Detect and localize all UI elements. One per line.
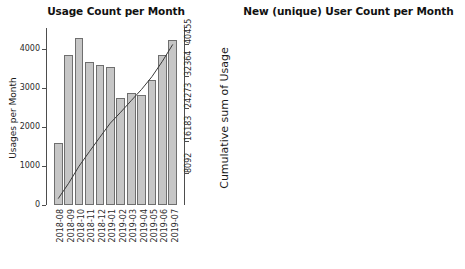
bar <box>64 55 73 205</box>
bar <box>168 40 177 205</box>
bar <box>148 80 157 205</box>
y2-tick-label: 24273 <box>185 83 193 108</box>
x-tick-label: 2019-06 <box>161 209 169 242</box>
y-tick-label: 4000 <box>20 45 40 53</box>
x-tick-label: 2019-05 <box>151 209 159 242</box>
bar-series-usage <box>53 30 178 205</box>
bar <box>106 67 115 205</box>
x-tick-label: 2018-10 <box>78 209 86 242</box>
bar <box>158 55 167 205</box>
bar <box>54 143 63 205</box>
x-tick-label: 2018-09 <box>68 209 76 242</box>
x-tick-label: 2018-08 <box>57 209 65 242</box>
chart-panel-usage: Usage Count per Month 01000200030004000 … <box>0 0 232 269</box>
y-tick-label: 2000 <box>20 123 40 131</box>
x-tick-label: 2018-12 <box>99 209 107 242</box>
x-tick-label: 2018-11 <box>88 209 96 242</box>
bar <box>85 62 94 205</box>
chart-title-users: New (unique) User Count per Month <box>232 5 465 17</box>
y-tick-label: 0 <box>35 201 40 209</box>
y-tick-label: 1000 <box>20 162 40 170</box>
y-axis-title-usage: Usages per Month <box>9 77 18 159</box>
y-tick <box>42 49 46 50</box>
bar <box>127 93 136 205</box>
y-tick <box>42 127 46 128</box>
y2-tick-label: 32364 <box>185 51 193 76</box>
y2-tick-label: 16183 <box>185 115 193 140</box>
chart-panel-users: New (unique) User Count per Month 020040… <box>232 0 465 269</box>
chart-title-usage: Usage Count per Month <box>0 5 232 17</box>
y2-tick <box>185 44 189 45</box>
y-tick <box>42 88 46 89</box>
x-tick-label: 2019-02 <box>120 209 128 242</box>
bar <box>137 95 146 205</box>
y-tick <box>42 166 46 167</box>
x-tick-label: 2019-04 <box>141 209 149 242</box>
x-tick-label: 2019-01 <box>109 209 117 242</box>
y2-tick <box>185 76 189 77</box>
y-axis-spine-left <box>46 28 47 205</box>
y2-axis-title-usage: Cumulative sum of Usage <box>220 47 231 189</box>
bar <box>116 98 125 205</box>
y-tick-label: 3000 <box>20 84 40 92</box>
x-tick-label: 2019-03 <box>130 209 138 242</box>
bar <box>75 38 84 205</box>
y-tick <box>42 205 46 206</box>
plot-area-usage: 01000200030004000 8092161832427332364404… <box>53 30 178 205</box>
y2-tick <box>185 108 189 109</box>
figure-canvas: Usage Count per Month 01000200030004000 … <box>0 0 465 269</box>
y2-tick-label: 8092 <box>185 152 193 172</box>
y2-tick-label: 40455 <box>185 19 193 44</box>
x-axis-labels-usage: 2018-082018-092018-102018-112018-122019-… <box>53 205 178 265</box>
x-tick-label: 2019-07 <box>172 209 180 242</box>
bar <box>96 65 105 205</box>
